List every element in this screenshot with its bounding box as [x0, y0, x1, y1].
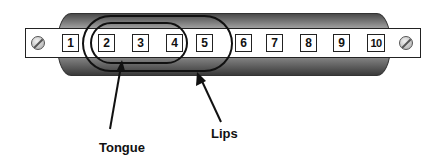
lips-arrow-head-icon: [196, 72, 206, 86]
lips-label: Lips: [211, 126, 238, 141]
tongue-arrow-line: [110, 66, 121, 129]
lips-arrow-line: [201, 79, 221, 122]
tongue-arrow-head-icon: [116, 60, 125, 72]
tongue-label: Tongue: [99, 140, 145, 155]
harmonica-diagram: 1 2 3 4 5 6 7 8 9 10 Tongue Lips: [0, 0, 440, 162]
